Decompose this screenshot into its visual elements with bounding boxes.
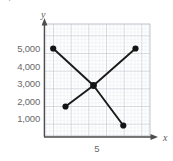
y-tick-label-2000: 2,000 — [17, 96, 40, 107]
x-axis-label: x — [162, 132, 168, 143]
data-point-marker — [50, 45, 56, 51]
chart-svg: y x 5,000 4,000 3,000 2,000 1,000 5 — [0, 0, 173, 161]
y-tick-label-1000: 1,000 — [17, 113, 40, 124]
y-tick-label-5000: 5,000 — [17, 43, 40, 54]
data-point-marker — [62, 103, 68, 109]
data-point-marker — [132, 45, 138, 51]
y-tick-label-4000: 4,000 — [17, 61, 40, 72]
x-tick-label-5: 5 — [94, 143, 99, 154]
y-tick-label-3000: 3,000 — [17, 78, 40, 89]
chart-figure: y x 5,000 4,000 3,000 2,000 1,000 5 — [0, 0, 173, 161]
y-axis-label: y — [40, 9, 46, 20]
data-point-marker — [120, 122, 126, 128]
intersection-point-marker — [90, 82, 97, 89]
chart-screenshot: f $4.00 — [0, 0, 173, 161]
plot-grid — [44, 24, 150, 136]
